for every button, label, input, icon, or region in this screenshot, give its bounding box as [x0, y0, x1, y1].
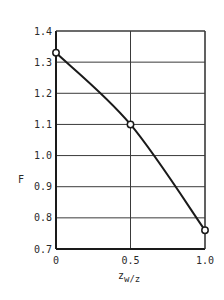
y-tick-label: 0.7: [34, 244, 52, 255]
x-axis-ticks: 00.51.0: [53, 255, 214, 266]
x-axis-label: zw/z: [118, 270, 140, 284]
data-point-marker: [127, 121, 133, 127]
grid-lines: [56, 31, 205, 249]
x-tick-label: 0.5: [121, 255, 139, 266]
data-point-marker: [53, 50, 59, 56]
x-tick-label: 1.0: [196, 255, 214, 266]
y-tick-label: 1.4: [34, 26, 52, 37]
y-tick-label: 1.1: [34, 119, 52, 130]
line-chart: 0.70.80.91.01.11.21.31.4 00.51.0 F zw/z: [0, 0, 224, 300]
y-tick-label: 1.0: [34, 150, 52, 161]
y-tick-label: 1.2: [34, 88, 52, 99]
y-tick-label: 0.9: [34, 181, 52, 192]
y-tick-label: 1.3: [34, 57, 52, 68]
y-axis-ticks: 0.70.80.91.01.11.21.31.4: [34, 26, 52, 255]
y-tick-label: 0.8: [34, 212, 52, 223]
x-tick-label: 0: [53, 255, 59, 266]
y-axis-label: F: [18, 174, 24, 185]
x-axis-label-sub: w/z: [124, 274, 140, 284]
data-point-marker: [202, 227, 208, 233]
